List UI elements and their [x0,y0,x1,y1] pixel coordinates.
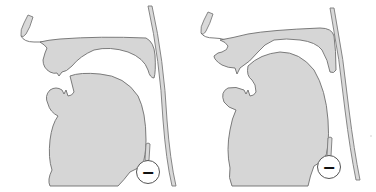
left-vocal-tract-diagram: − [21,6,176,186]
epiglottis [145,143,150,161]
tongue-lower-jaw [46,73,146,186]
speck [370,135,372,137]
voiceless-badge: − [137,161,160,184]
upper-lip-palate-velum [40,37,155,78]
svg-text:−: − [141,163,154,182]
nose-to-lip-line [201,33,226,40]
epiglottis [327,137,332,157]
right-vocal-tract-diagram: − [201,8,360,186]
nose [21,15,33,37]
voiceless-badge: − [318,156,341,179]
pharyngeal-wall [330,8,360,180]
nose [201,12,213,34]
vocal-tract-figure: − − [0,0,376,192]
svg-text:−: − [322,158,335,177]
pharyngeal-wall [148,6,176,186]
tongue-lower-jaw [223,52,329,186]
